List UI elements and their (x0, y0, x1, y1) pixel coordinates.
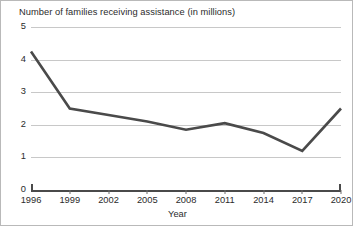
x-tick-label-1999: 1999 (59, 195, 80, 205)
x-tick-2002 (108, 190, 109, 194)
chart-figure: Number of families receiving assistance … (0, 0, 353, 226)
gridline-y-4 (31, 60, 341, 61)
x-tick-2005 (147, 190, 148, 194)
x-tick-label-2002: 2002 (98, 195, 119, 205)
gridline-y-2 (31, 125, 341, 126)
gridline-y-3 (31, 92, 341, 93)
y-tick-label-3: 3 (21, 88, 26, 97)
y-tick-label-0: 0 (21, 185, 26, 194)
x-tick-2008 (186, 190, 187, 194)
x-tick-1999 (69, 190, 70, 194)
x-axis-title: Year (1, 209, 353, 219)
plot-area: 012345 (31, 27, 341, 190)
x-tick-label-2014: 2014 (253, 195, 274, 205)
y-tick-label-2: 2 (21, 120, 26, 129)
x-tick-label-2005: 2005 (137, 195, 158, 205)
y-tick-label-4: 4 (21, 55, 26, 64)
x-tick-2017 (302, 190, 303, 194)
y-tick-label-1: 1 (21, 153, 26, 162)
y-tick-label-5: 5 (21, 22, 26, 31)
gridline-y-1 (31, 157, 341, 158)
x-tick-label-2008: 2008 (176, 195, 197, 205)
gridline-y-5 (31, 27, 341, 28)
x-tick-label-2011: 2011 (215, 195, 235, 205)
x-tick-label-2017: 2017 (292, 195, 313, 205)
x-tick-label-2020: 2020 (331, 195, 352, 205)
x-tick-2011 (224, 190, 225, 194)
x-tick-2014 (263, 190, 264, 194)
chart-title: Number of families receiving assistance … (19, 7, 235, 17)
x-tick-label-1996: 1996 (21, 195, 42, 205)
x-tick-2020 (341, 190, 342, 194)
